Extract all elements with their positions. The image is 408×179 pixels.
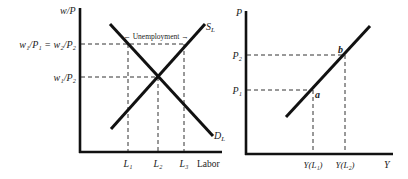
- tick-YL1: Y(L₁): [303, 160, 322, 170]
- left-y-axis-label: w/P: [60, 5, 76, 16]
- left-x-axis-label: Labor: [197, 159, 221, 169]
- tick-L2: L₂: [152, 158, 163, 169]
- tick-w1p1-eq-w2p2: w₁/P₁ = w₂/P₂: [19, 39, 76, 50]
- diagram-canvas: w/P w₁/P₁ = w₂/P₂ w₁/P₂ L₁ L₂ L₃ Labor S…: [0, 0, 408, 179]
- tick-L1: L₁: [122, 158, 132, 169]
- point-a-label: a: [315, 89, 320, 100]
- tick-P2: P₂: [231, 50, 242, 61]
- supply-label: SL: [206, 21, 215, 34]
- demand-label: DL: [213, 130, 225, 143]
- aggregate-supply-curve: [286, 26, 370, 117]
- unemployment-annotation: ← Unemployment →: [123, 32, 188, 41]
- aggregate-supply-panel: P P₂ P₁ Y(L₁) Y(L₂) Y a b: [231, 7, 393, 170]
- tick-L3: L₃: [178, 158, 189, 169]
- point-b-label: b: [338, 44, 343, 55]
- tick-YL2: Y(L₂): [335, 160, 354, 170]
- right-y-axis-label: P: [235, 7, 242, 18]
- tick-w1p2: w₁/P₂: [53, 72, 76, 83]
- right-x-axis-label: Y: [384, 159, 391, 170]
- labor-market-panel: w/P w₁/P₁ = w₂/P₂ w₁/P₂ L₁ L₂ L₃ Labor S…: [19, 5, 225, 169]
- tick-P1: P₁: [231, 85, 242, 96]
